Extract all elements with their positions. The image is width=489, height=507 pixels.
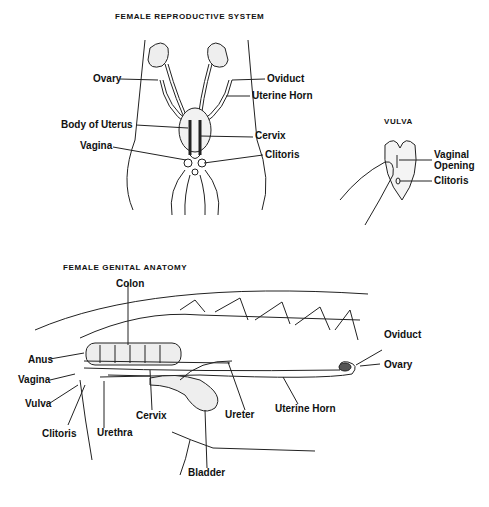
- label-uterine-horn-lower: Uterine Horn: [275, 404, 336, 414]
- label-vaginal: Vaginal: [434, 150, 469, 160]
- label-bladder: Bladder: [188, 468, 225, 478]
- label-ureter: Ureter: [225, 410, 254, 420]
- title-vulva: VULVA: [384, 117, 413, 126]
- label-ovary: Ovary: [93, 74, 121, 84]
- label-clitoris: Clitoris: [265, 150, 299, 160]
- label-vulva-clitoris: Clitoris: [434, 176, 468, 186]
- title-reproductive-system: FEMALE REPRODUCTIVE SYSTEM: [115, 12, 264, 21]
- label-anus: Anus: [28, 355, 53, 365]
- label-uterine-horn: Uterine Horn: [252, 91, 313, 101]
- label-colon: Colon: [116, 279, 144, 289]
- label-opening: Opening: [434, 161, 475, 171]
- label-urethra: Urethra: [97, 428, 133, 438]
- label-vagina: Vagina: [80, 141, 112, 151]
- label-vagina-lower: Vagina: [18, 375, 50, 385]
- label-ovary-lower: Ovary: [384, 360, 412, 370]
- label-oviduct: Oviduct: [267, 74, 304, 84]
- label-cervix: Cervix: [255, 131, 286, 141]
- label-vulva-lower: Vulva: [25, 399, 51, 409]
- label-cervix-lower: Cervix: [136, 411, 167, 421]
- label-oviduct-lower: Oviduct: [384, 330, 421, 340]
- label-body-of-uterus: Body of Uterus: [61, 120, 133, 130]
- label-clitoris-lower: Clitoris: [42, 429, 76, 439]
- title-genital-anatomy: FEMALE GENITAL ANATOMY: [63, 263, 187, 272]
